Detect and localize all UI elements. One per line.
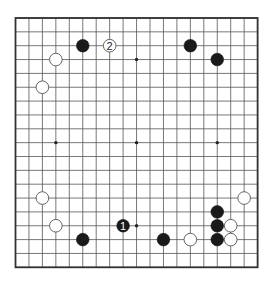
white-stone bbox=[50, 53, 63, 66]
white-stone bbox=[184, 233, 197, 246]
go-board: 21 bbox=[0, 0, 272, 284]
star-point bbox=[216, 141, 219, 144]
white-stone bbox=[238, 192, 251, 205]
black-stone bbox=[211, 206, 224, 219]
star-point bbox=[135, 58, 138, 61]
white-stone bbox=[224, 219, 237, 232]
move-number: 1 bbox=[120, 220, 126, 232]
black-stone bbox=[211, 219, 224, 232]
black-stone bbox=[157, 233, 170, 246]
star-point bbox=[54, 141, 57, 144]
black-stone bbox=[76, 39, 89, 52]
black-stone: 1 bbox=[117, 219, 130, 232]
star-point bbox=[135, 224, 138, 227]
white-stone bbox=[36, 81, 49, 94]
black-stone bbox=[211, 233, 224, 246]
black-stone bbox=[76, 233, 89, 246]
white-stone bbox=[36, 192, 49, 205]
move-number: 2 bbox=[107, 40, 113, 52]
black-stone bbox=[211, 53, 224, 66]
black-stone bbox=[184, 39, 197, 52]
white-stone bbox=[224, 233, 237, 246]
white-stone bbox=[50, 219, 63, 232]
star-point bbox=[135, 141, 138, 144]
white-stone: 2 bbox=[103, 39, 116, 52]
